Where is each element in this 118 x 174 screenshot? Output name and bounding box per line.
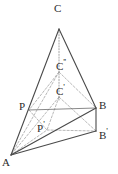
label-point-c-prime: C' bbox=[56, 82, 64, 97]
label-prime-mark: ' bbox=[106, 126, 107, 136]
label-point-a: A bbox=[2, 157, 10, 168]
label-text: A bbox=[2, 156, 10, 168]
edge-a-c bbox=[11, 29, 59, 155]
label-text: C bbox=[54, 2, 61, 14]
label-prime-mark: ' bbox=[63, 82, 64, 92]
edge-cdouble-a bbox=[11, 72, 59, 155]
edge-cdouble-p bbox=[29, 72, 59, 110]
edge-a-pprime-ext bbox=[11, 130, 47, 155]
edge-cprime-pprime bbox=[47, 97, 59, 130]
label-point-b: B bbox=[99, 100, 106, 111]
edge-p-b bbox=[29, 108, 96, 110]
label-point-p: P bbox=[19, 101, 25, 112]
edge-a-bprime bbox=[11, 131, 96, 155]
label-apex-c: C bbox=[54, 3, 61, 14]
edge-a-b bbox=[11, 108, 96, 155]
geometry-figure: CC''C'PBP'B'A bbox=[0, 0, 118, 174]
label-point-p-prime: P' bbox=[37, 119, 44, 134]
edge-cdouble-b bbox=[59, 72, 96, 108]
label-text: B bbox=[99, 99, 106, 111]
label-prime-mark: '' bbox=[63, 57, 65, 67]
solid-edges-group bbox=[11, 29, 96, 155]
thin-edges-group bbox=[29, 108, 96, 110]
label-prime-mark: ' bbox=[43, 119, 44, 129]
label-point-b-prime: B' bbox=[99, 126, 107, 141]
label-point-c-double: C'' bbox=[56, 57, 66, 72]
label-text: P bbox=[19, 100, 25, 112]
